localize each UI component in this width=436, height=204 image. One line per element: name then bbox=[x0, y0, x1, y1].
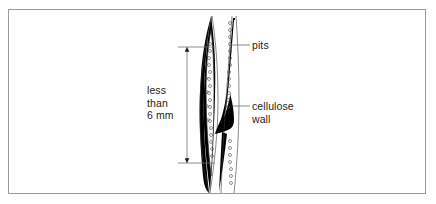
figure-root: pits cellulose wall less than 6 mm bbox=[0, 0, 436, 204]
cellulose-wall-label: cellulose wall bbox=[252, 100, 294, 125]
right-fibre-cell bbox=[215, 16, 239, 193]
fibre-cell-illustration bbox=[0, 0, 436, 204]
dimension-label: less than 6 mm bbox=[147, 84, 174, 122]
pits-label: pits bbox=[252, 39, 269, 52]
left-fibre-cell bbox=[200, 16, 218, 193]
right-cell-lower-wall bbox=[219, 132, 227, 192]
